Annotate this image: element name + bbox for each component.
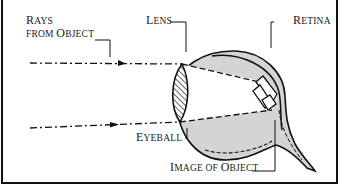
ray-arrow-heads <box>110 60 126 128</box>
label-eyeball: EYEBALL <box>136 130 182 144</box>
label-image-of-object: IMAGE OF OBJECT <box>170 160 259 174</box>
eyeball <box>176 51 315 171</box>
eye-diagram: RAYS FROM OBJECT LENS RETINA EYEBALL IMA… <box>0 0 351 188</box>
label-rays: RAYS <box>26 13 53 27</box>
label-retina: RETINA <box>293 13 331 27</box>
label-lens: LENS <box>146 13 172 27</box>
frame <box>1 0 338 183</box>
label-from-object: FROM OBJECT <box>26 26 94 40</box>
